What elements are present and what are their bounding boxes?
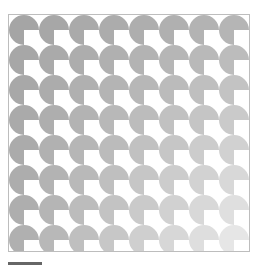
pattern-tile [69,195,99,225]
pattern-tile [99,225,129,252]
pattern-tile [9,165,39,195]
pattern-tile [39,165,69,195]
pattern-tile [9,15,39,45]
pattern-tile [9,105,39,135]
pattern-tile [189,105,219,135]
pattern-tile [69,105,99,135]
pattern-tile [9,75,39,105]
pattern-tile [99,15,129,45]
pattern-tile [39,75,69,105]
pattern-tile [69,75,99,105]
pattern-tile [99,195,129,225]
pattern-tile [189,195,219,225]
pattern-tile [219,15,249,45]
pattern-tile [99,135,129,165]
pattern-tile [129,45,159,75]
pattern-tile [99,45,129,75]
pattern-tile [219,165,249,195]
pattern-tile [99,165,129,195]
pattern-tile [9,225,39,252]
pattern-tile [219,195,249,225]
pattern-tile [159,195,189,225]
pattern-tile [189,75,219,105]
pattern-tile [39,225,69,252]
pattern-tile [189,135,219,165]
pattern-tile [219,45,249,75]
pattern-tile [219,135,249,165]
pattern-tile [39,45,69,75]
pattern-tile [39,105,69,135]
pattern-tile [9,135,39,165]
pattern-tile [39,135,69,165]
pattern-tile [159,165,189,195]
pattern-tile [189,45,219,75]
scale-bar [8,262,42,265]
pattern-tile [129,165,159,195]
pattern-tile [159,45,189,75]
pattern-tile [189,225,219,252]
pattern-tile [159,75,189,105]
pattern-tile [219,105,249,135]
pattern-tile [219,225,249,252]
pattern-tile [129,135,159,165]
pattern-tile [189,15,219,45]
pattern-tile [189,165,219,195]
pattern-tile [99,105,129,135]
pattern-tile [129,105,159,135]
pattern-tile [99,75,129,105]
pattern-tile [69,45,99,75]
pattern-tile [159,225,189,252]
quarter-cut-circle-pattern [9,15,249,252]
pattern-tile [159,105,189,135]
pattern-tile [129,15,159,45]
pattern-tile [9,45,39,75]
pattern-tile [129,225,159,252]
pattern-tile [69,15,99,45]
pattern-tile [129,75,159,105]
pattern-tile [159,15,189,45]
pattern-tile [159,135,189,165]
pattern-tile [9,195,39,225]
pattern-tile [219,75,249,105]
pattern-tile [39,15,69,45]
pattern-tile [69,165,99,195]
pattern-tile [129,195,159,225]
pattern-tile [69,135,99,165]
pattern-tile [39,195,69,225]
pattern-frame [8,14,250,252]
pattern-tile [69,225,99,252]
